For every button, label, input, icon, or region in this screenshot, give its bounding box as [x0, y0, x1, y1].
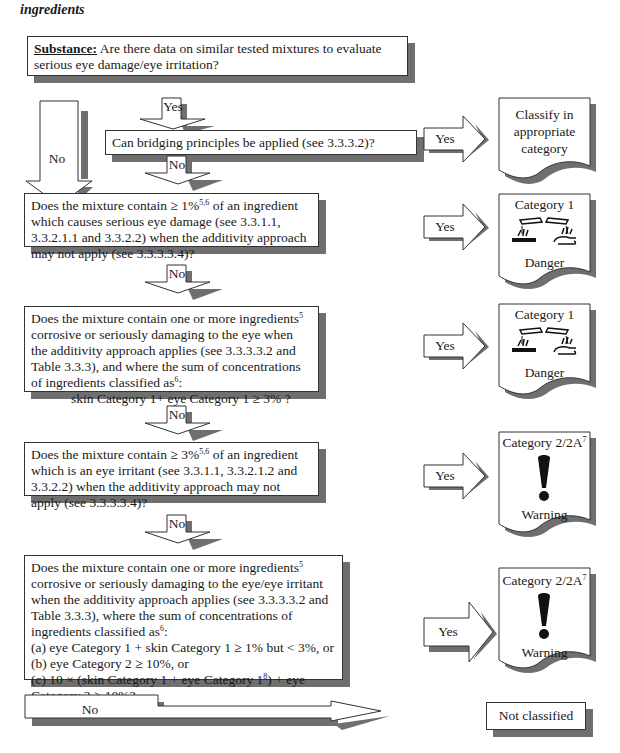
question-2-box: Does the mixture contain one or more ing… — [24, 306, 319, 392]
outcome-3-title-text: Category 2/2A — [503, 435, 583, 450]
corrosion-icon — [512, 324, 578, 360]
no-label-2: No — [166, 266, 188, 282]
footnote-ref: 5,6 — [199, 198, 209, 207]
question-4-text-b: corrosive or seriously damaging to the e… — [31, 576, 328, 639]
criterion-c-text-a: (c) 10 × (skin Category 1 + eye Category… — [31, 672, 263, 687]
outcome-category-2-document: Category 2/2A7 Warning — [498, 430, 602, 540]
question-3-text-a: Does the mixture contain ≥ 3% — [31, 447, 199, 462]
question-2-text-a: Does the mixture contain one or more ing… — [31, 311, 299, 326]
corrosion-icon — [512, 214, 578, 250]
outcome-category-1-document: Category 1 Danger — [498, 302, 602, 402]
outcome-category-2-document: Category 2/2A7 Warning — [498, 566, 602, 676]
footnote-ref: 7 — [582, 435, 586, 444]
yes-label-out-3: Yes — [428, 468, 462, 484]
outcome-category-1-document: Category 1 Danger — [498, 192, 602, 292]
yes-label-bridging: Yes — [158, 99, 188, 115]
no-label-4: No — [166, 516, 188, 532]
bridging-question-text: Can bridging principles be applied (see … — [112, 135, 375, 150]
outcome-4-signal: Warning — [498, 644, 591, 661]
outcome-2-title: Category 1 — [498, 306, 591, 323]
outcome-4-title: Category 2/2A7 — [498, 572, 591, 589]
outcome-1-signal: Danger — [498, 254, 591, 271]
classify-line-1: Classify in — [498, 106, 591, 123]
question-4-text-a: Does the mixture contain one or more ing… — [31, 560, 299, 575]
outcome-1-title: Category 1 — [498, 196, 591, 213]
outcome-2-signal: Danger — [498, 364, 591, 381]
no-label-1: No — [166, 157, 188, 173]
footnote-ref: 7 — [582, 573, 586, 582]
substance-question-box: Substance: Are there data on similar tes… — [27, 36, 408, 76]
yes-label-out-0: Yes — [428, 131, 462, 147]
question-1-text-a: Does the mixture contain ≥ 1% — [31, 198, 199, 213]
criterion-a: (a) eye Category 1 + skin Category 1 ≥ 1… — [31, 640, 336, 656]
colon: : — [164, 624, 168, 639]
substance-label: Substance: — [34, 41, 97, 56]
classify-line-2: appropriate — [498, 123, 591, 140]
outcome-3-signal: Warning — [498, 506, 591, 523]
exclamation-icon — [534, 592, 554, 642]
final-no-label: No — [60, 702, 120, 718]
footnote-ref: 5 — [299, 311, 303, 320]
heading: ingredients — [20, 2, 85, 18]
criterion-b: (b) eye Category 2 ≥ 10%, or — [31, 656, 336, 672]
big-no-label: No — [42, 151, 72, 167]
yes-label-out-2: Yes — [428, 338, 462, 354]
exclamation-icon — [534, 454, 554, 504]
question-1-box: Does the mixture contain ≥ 1%5,6 of an i… — [24, 193, 319, 247]
no-label-3: No — [166, 407, 188, 423]
question-2-text-b: corrosive or seriously damaging to the e… — [31, 327, 301, 390]
question-3-box: Does the mixture contain ≥ 3%5,6 of an i… — [24, 442, 319, 496]
footnote-ref: 5 — [299, 560, 303, 569]
colon: : — [179, 375, 183, 390]
not-classified-text: Not classified — [499, 708, 574, 723]
yes-label-out-1: Yes — [428, 219, 462, 235]
classify-line-3: category — [498, 140, 591, 157]
outcome-classify-document: Classify in appropriate category — [498, 96, 602, 186]
yes-label-out-4: Yes — [428, 624, 468, 640]
outcome-3-title: Category 2/2A7 — [498, 434, 591, 451]
question-4-box: Does the mixture contain one or more ing… — [24, 555, 343, 680]
outcome-4-title-text: Category 2/2A — [503, 573, 583, 588]
footnote-ref: 5,6 — [199, 447, 209, 456]
bridging-question-box: Can bridging principles be applied (see … — [105, 130, 417, 155]
not-classified-box: Not classified — [486, 702, 586, 730]
